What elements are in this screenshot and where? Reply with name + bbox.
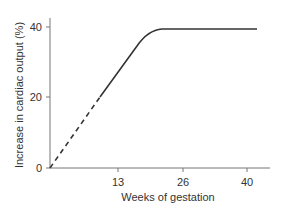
y-ticks: 0 20 40 [30,21,50,174]
y-tick-label-20: 20 [30,91,42,103]
x-tick-label-26: 26 [177,176,189,188]
x-axis-label: Weeks of gestation [121,191,214,203]
dashed-extrapolation-line [50,97,100,168]
x-tick-label-13: 13 [112,176,124,188]
y-axis-label: Increase in cardiac output (%) [13,22,25,168]
cardiac-output-chart: 0 20 40 13 26 40 Weeks of gestation Incr… [0,0,282,213]
x-ticks: 13 26 40 [112,168,253,188]
solid-cardiac-output-line [100,29,257,97]
y-tick-label-40: 40 [30,21,42,33]
x-tick-label-40: 40 [241,176,253,188]
y-tick-label-0: 0 [36,162,42,174]
